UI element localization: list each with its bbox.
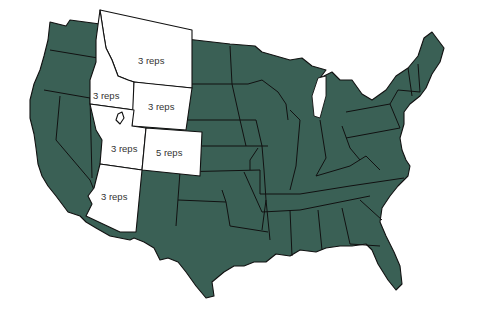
label-montana: 3 reps xyxy=(138,55,165,66)
label-arizona: 3 reps xyxy=(101,191,128,202)
us-landmass xyxy=(30,20,444,298)
label-wyoming: 3 reps xyxy=(148,101,175,112)
label-idaho: 3 reps xyxy=(93,90,120,101)
label-utah: 3 reps xyxy=(111,143,138,154)
us-map: 3 reps 3 reps 3 reps 3 reps 5 reps 3 rep… xyxy=(0,0,479,320)
label-colorado: 5 reps xyxy=(156,147,183,158)
